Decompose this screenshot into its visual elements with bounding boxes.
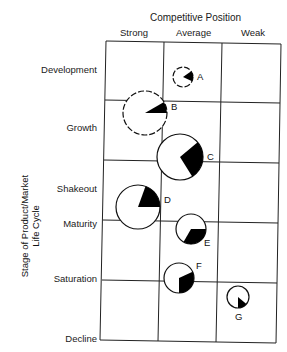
column-divider — [216, 43, 222, 342]
bubble-label: B — [171, 101, 177, 112]
bubble-label: C — [207, 151, 214, 162]
bubble-f: F — [164, 260, 202, 293]
bubble-g: G — [227, 286, 249, 322]
column-divider — [158, 42, 164, 341]
bubble-b: B — [123, 91, 177, 135]
bubble-d: D — [116, 185, 171, 229]
bubble-a: A — [173, 67, 204, 87]
matrix-grid: ABCDEFG — [0, 0, 287, 352]
bubble-label: E — [204, 237, 210, 248]
bubble-label: D — [164, 194, 171, 205]
bubbles-layer: ABCDEFG — [116, 67, 249, 322]
bubble-e: E — [176, 214, 210, 248]
bubble-label: F — [196, 260, 202, 271]
bubble-label: A — [197, 71, 204, 82]
bubble-c: C — [157, 134, 214, 180]
bubble-label: G — [235, 311, 242, 322]
